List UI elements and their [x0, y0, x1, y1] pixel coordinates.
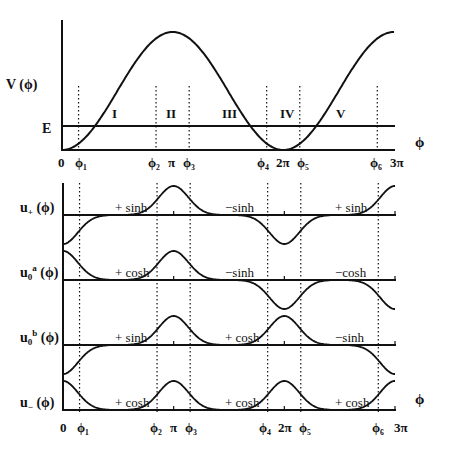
tick-phi5: ϕ₅	[297, 155, 309, 170]
region-annotation: + sinh	[335, 200, 368, 215]
top-xlabel: ϕ	[415, 134, 424, 150]
tick-phi1: ϕ₁	[77, 420, 89, 435]
region-label-5: V	[336, 106, 346, 121]
region-annotation: + cosh	[225, 330, 260, 345]
tick-phi3: ϕ₃	[183, 155, 195, 170]
tick-phi4: ϕ₄	[257, 155, 269, 170]
tick-0: 0	[58, 155, 65, 170]
bottom-x-ticks: 0 ϕ₁ ϕ₂ π ϕ₃ ϕ₄ 2π ϕ₅ ϕ₆ 3π	[60, 420, 408, 435]
wavefunction-curve	[63, 186, 395, 244]
tick-pi: π	[168, 155, 175, 170]
tick-2pi: 2π	[278, 420, 292, 435]
bottom-panel: u+ (ϕ)+ sinh−sinh+ sinhu0a (ϕ)+ cosh−sin…	[20, 183, 424, 435]
wavefunction-curve	[63, 251, 395, 309]
wavefunction-rows: u+ (ϕ)+ sinh−sinh+ sinhu0a (ϕ)+ cosh−sin…	[20, 186, 396, 412]
tick-3pi: 3π	[390, 155, 404, 170]
tick-phi2: ϕ₂	[150, 420, 162, 435]
tick-phi3: ϕ₃	[185, 420, 197, 435]
bottom-turning-point-lines	[80, 183, 379, 412]
tick-phi6: ϕ₆	[372, 420, 384, 435]
region-annotation: −sinh	[225, 200, 255, 215]
top-x-ticks: 0 ϕ₁ ϕ₂ π ϕ₃ ϕ₄ 2π ϕ₅ ϕ₆ 3π	[58, 155, 404, 170]
tick-phi4: ϕ₄	[259, 420, 271, 435]
region-label-1: I	[112, 106, 117, 121]
region-annotation: −sinh	[225, 265, 255, 280]
wavefunction-curve	[63, 316, 395, 374]
tick-phi1: ϕ₁	[75, 155, 87, 170]
tick-2pi: 2π	[276, 155, 290, 170]
region-annotation: −cosh	[335, 265, 367, 280]
region-annotation: + sinh	[115, 330, 148, 345]
wavefunction-row-3: u0b (ϕ)+ sinh+ cosh−sinh	[20, 316, 396, 374]
wavefunction-row-1: u+ (ϕ)+ sinh−sinh+ sinh	[20, 186, 396, 244]
tick-phi5: ϕ₅	[299, 420, 311, 435]
wavefunction-label: u+ (ϕ)	[20, 200, 55, 217]
tick-0: 0	[60, 420, 67, 435]
region-annotation: + cosh	[335, 395, 370, 410]
tick-phi6: ϕ₆	[370, 155, 382, 170]
top-panel: V (ϕ) E ϕ I II III IV V 0 ϕ₁ ϕ₂ π ϕ₃ ϕ₄ …	[6, 20, 424, 170]
wavefunction-row-4: u− (ϕ)+ cosh+ cosh+ cosh	[20, 381, 396, 412]
wavefunction-label: u− (ϕ)	[20, 395, 55, 412]
region-annotation: + cosh	[225, 395, 260, 410]
tick-phi2: ϕ₂	[148, 155, 160, 170]
wavefunction-label: u0a (ϕ)	[20, 263, 59, 282]
region-label-3: III	[222, 106, 237, 121]
wavefunction-label: u0b (ϕ)	[20, 328, 59, 347]
tick-3pi: 3π	[394, 420, 408, 435]
figure-canvas: V (ϕ) E ϕ I II III IV V 0 ϕ₁ ϕ₂ π ϕ₃ ϕ₄ …	[0, 0, 453, 455]
energy-label: E	[42, 121, 51, 136]
region-label-2: II	[166, 106, 176, 121]
tick-pi: π	[170, 420, 177, 435]
region-annotation: −sinh	[335, 330, 365, 345]
region-annotation: + cosh	[115, 265, 150, 280]
potential-curve	[62, 32, 394, 150]
wavefunction-row-2: u0a (ϕ)+ cosh−sinh−cosh	[20, 251, 396, 309]
region-label-4: IV	[280, 106, 295, 121]
potential-ylabel: V (ϕ)	[6, 77, 38, 93]
bottom-xlabel: ϕ	[415, 391, 424, 407]
region-annotation: + sinh	[115, 200, 148, 215]
region-annotation: + cosh	[115, 395, 150, 410]
